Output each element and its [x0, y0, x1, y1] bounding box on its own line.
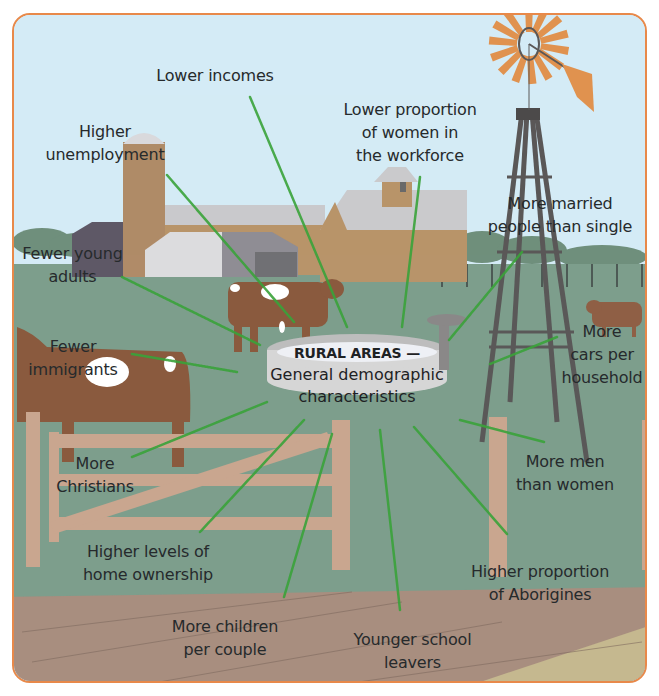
label-more-children: More children per couple: [155, 615, 295, 661]
central-topic-subtitle-line1: General demographic: [262, 364, 452, 386]
label-more-cars: More cars per household: [552, 320, 652, 389]
label-text: Higher: [35, 120, 175, 143]
central-topic: RURAL AREAS — General demographic charac…: [262, 342, 452, 408]
label-text: Christians: [45, 475, 145, 498]
label-more-men: More men than women: [505, 450, 625, 496]
label-text: More: [45, 452, 145, 475]
label-text: Higher proportion: [455, 560, 625, 583]
label-text: of Aborigines: [455, 583, 625, 606]
label-text: More children: [155, 615, 295, 638]
label-text: Younger school: [340, 628, 485, 651]
label-home-ownership: Higher levels of home ownership: [68, 540, 228, 586]
big-barn-wall: [320, 230, 467, 282]
label-text: than women: [505, 473, 625, 496]
central-topic-title: RURAL AREAS —: [262, 342, 452, 364]
label-higher-unemployment: Higher unemployment: [35, 120, 175, 166]
central-topic-subtitle-line2: characteristics: [262, 386, 452, 408]
label-text: Fewer young: [10, 242, 135, 265]
label-text: Lower incomes: [145, 64, 285, 87]
label-text: home ownership: [68, 563, 228, 586]
label-text: household: [552, 366, 652, 389]
label-text: Lower proportion: [330, 98, 490, 121]
label-more-married: More married people than single: [470, 192, 650, 238]
label-text: Fewer: [18, 335, 128, 358]
label-text: More men: [505, 450, 625, 473]
label-text: leavers: [340, 651, 485, 674]
label-text: unemployment: [35, 143, 175, 166]
label-more-christians: More Christians: [45, 452, 145, 498]
label-fewer-immigrants: Fewer immigrants: [18, 335, 128, 381]
label-text: the workforce: [330, 144, 490, 167]
label-text: adults: [10, 265, 135, 288]
label-aborigines: Higher proportion of Aborigines: [455, 560, 625, 606]
label-text: people than single: [470, 215, 650, 238]
label-text: Higher levels of: [68, 540, 228, 563]
label-text: per couple: [155, 638, 295, 661]
label-text: More married: [470, 192, 650, 215]
label-text: immigrants: [18, 358, 128, 381]
label-fewer-young-adults: Fewer young adults: [10, 242, 135, 288]
label-lower-incomes: Lower incomes: [145, 64, 285, 87]
label-lower-women-workforce: Lower proportion of women in the workfor…: [330, 98, 490, 167]
label-text: of women in: [330, 121, 490, 144]
label-younger-school-leavers: Younger school leavers: [340, 628, 485, 674]
label-text: cars per: [552, 343, 652, 366]
label-text: More: [552, 320, 652, 343]
